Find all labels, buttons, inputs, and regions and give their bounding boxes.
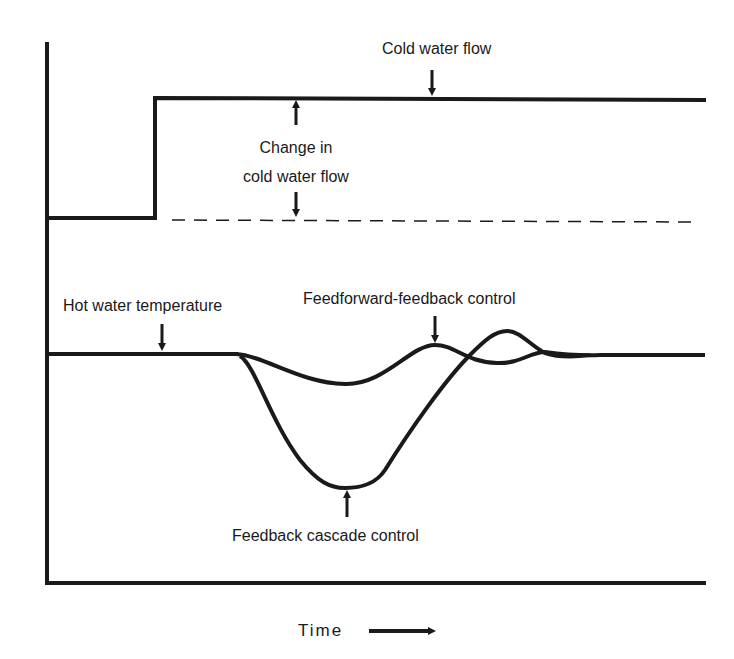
cold-water-flow-step-line (48, 98, 706, 218)
label-cold-water-flow: Cold water flow (382, 40, 492, 57)
label-feedback-cascade: Feedback cascade control (232, 527, 419, 544)
original-flow-dashed-line (172, 220, 697, 222)
label-feedforward-feedback: Feedforward-feedback control (303, 290, 516, 307)
feedforward-feedback-curve (236, 345, 705, 384)
control-response-diagram: Cold water flow Change in cold water flo… (0, 0, 734, 659)
label-hot-water-temperature: Hot water temperature (63, 297, 222, 314)
label-change-line2: cold water flow (243, 168, 349, 185)
time-axis-label: Time (298, 621, 343, 640)
label-change-line1: Change in (260, 139, 333, 156)
